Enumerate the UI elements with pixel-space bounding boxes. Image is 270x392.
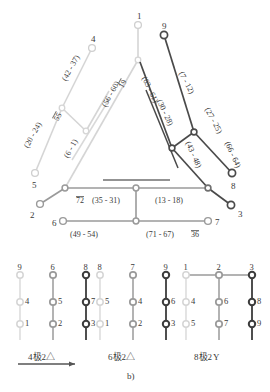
pole-group-caption-8-pole-2-wye: 8极2Y — [194, 350, 220, 363]
terminal-label-2: 2 — [30, 210, 35, 220]
terminal-node-9 — [160, 31, 167, 38]
coil-node — [163, 299, 169, 305]
coil-mid-label: 5 — [58, 296, 62, 306]
terminal-label-5: 5 — [32, 180, 37, 190]
coil-node — [97, 299, 103, 305]
coil-node — [17, 272, 23, 278]
coil-node — [50, 272, 56, 278]
coil-span-text: (13 - 18) — [155, 196, 183, 205]
coil-span-label: (49 - 54) — [70, 230, 98, 239]
coil-span-label: 72 — [76, 196, 84, 205]
coil-node — [83, 272, 89, 278]
terminal-node-7 — [205, 218, 212, 225]
coil-node — [97, 272, 103, 278]
pole-group-caption-text: 6极2△ — [108, 352, 135, 362]
coil-bot-label: 9 — [257, 318, 261, 328]
coil-mid-label: 6 — [171, 296, 175, 306]
coil-span-label: (13 - 18) — [155, 196, 183, 205]
coil-top-label: 8 — [84, 262, 88, 272]
coil-top-label: 2 — [217, 262, 221, 272]
coil-span-label: 36 — [191, 230, 199, 239]
coil-bot-label: 2 — [138, 318, 142, 328]
coil-bot-label: 5 — [191, 318, 195, 328]
coil-span-text: (49 - 54) — [70, 230, 98, 239]
terminal-nodes — [32, 22, 236, 225]
coil-bot-label: 3 — [171, 318, 175, 328]
coil-node — [163, 272, 169, 278]
coil-node — [50, 321, 56, 327]
coil-node — [249, 299, 255, 305]
terminal-label-8: 8 — [231, 181, 236, 191]
coil-span-label: (35 - 31) — [92, 196, 120, 205]
pole-group-caption-text: 8极2 — [194, 352, 212, 362]
coil-top-label: 3 — [250, 262, 254, 272]
coil-span-text: (35 - 31) — [92, 196, 120, 205]
coil-bot-label: 3 — [91, 318, 95, 328]
mid-phase-group — [40, 180, 211, 224]
coil-top-label: 8 — [98, 262, 102, 272]
coil-node — [83, 321, 89, 327]
coil-mid-label: 5 — [105, 296, 109, 306]
coil-mid-label: 4 — [138, 296, 142, 306]
terminal-node-8 — [228, 169, 235, 176]
coil-node — [163, 321, 169, 327]
terminal-label-4: 4 — [91, 34, 96, 44]
terminal-label-1: 1 — [137, 11, 142, 21]
coil-bot-label: 1 — [25, 318, 29, 328]
coil-node — [183, 321, 189, 327]
coil-node — [130, 321, 136, 327]
pole-group-caption-6-pole-2-delta: 6极2△ — [108, 350, 135, 363]
coil-bot-label: 1 — [105, 318, 109, 328]
coil-mid-label: 6 — [224, 296, 228, 306]
terminal-label-6: 6 — [52, 218, 57, 228]
terminal-label-7: 7 — [215, 217, 220, 227]
winding-diagram-svg — [0, 0, 270, 392]
coil-node — [17, 321, 23, 327]
coil-top-label: 1 — [184, 262, 188, 272]
coil-top-label: 9 — [164, 262, 168, 272]
coil-mid-label: 7 — [91, 296, 95, 306]
coil-node — [183, 272, 189, 278]
coil-node — [216, 272, 222, 278]
coil-node — [17, 299, 23, 305]
coil-mid-label: 4 — [191, 296, 195, 306]
terminal-label-9: 9 — [162, 21, 167, 31]
figure-caption: b) — [127, 371, 135, 381]
coil-span-label: (71 - 67) — [146, 230, 174, 239]
coil-node — [83, 299, 89, 305]
light-phase-group — [35, 25, 141, 188]
coil-node — [130, 299, 136, 305]
coil-node — [249, 272, 255, 278]
figure-root: 149526738 (42 - 37)(56 - 60)19(20 - 24)5… — [0, 0, 270, 392]
coil-node — [183, 299, 189, 305]
coil-mid-label: 4 — [25, 296, 29, 306]
coil-node — [97, 321, 103, 327]
coil-top-label: 6 — [51, 262, 55, 272]
pole-group-caption-text: 4极2△ — [28, 352, 55, 362]
terminal-node-4 — [89, 45, 96, 52]
coil-node — [130, 272, 136, 278]
terminal-label-3: 3 — [238, 209, 243, 219]
coil-span-text: (71 - 67) — [146, 230, 174, 239]
coil-bot-label: 2 — [58, 318, 62, 328]
coil-mid-label: 8 — [257, 296, 261, 306]
coil-node — [50, 299, 56, 305]
coil-top-label: 9 — [18, 262, 22, 272]
coil-node — [216, 299, 222, 305]
coil-span-text: 36 — [191, 230, 199, 239]
terminal-node-5 — [32, 170, 39, 177]
pole-group-caption-4-pole-2-delta: 4极2△ — [28, 350, 55, 363]
coil-node — [216, 321, 222, 327]
terminal-node-6 — [60, 218, 67, 225]
coil-bot-label: 7 — [224, 318, 228, 328]
wye-symbol: Y — [213, 352, 220, 362]
terminal-node-3 — [227, 201, 234, 208]
coil-top-label: 7 — [131, 262, 135, 272]
terminal-node-1 — [135, 22, 142, 29]
coil-span-text: 72 — [76, 196, 84, 205]
terminal-node-2 — [37, 201, 44, 208]
coil-node — [249, 321, 255, 327]
